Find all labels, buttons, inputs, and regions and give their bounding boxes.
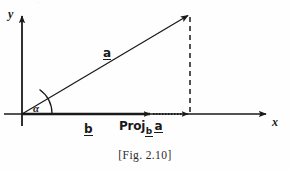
figure-canvas (0, 0, 290, 170)
projection-label-prefix: Proj (119, 119, 145, 133)
projection-label-subscript: b (145, 127, 152, 137)
y-axis-label: y (8, 8, 13, 20)
projection-label: Projba (119, 120, 163, 133)
projection-label-argument: a (154, 120, 163, 133)
vector-a-label-text: a (103, 47, 111, 60)
vector-a-label: a (103, 44, 111, 60)
vector-b-label: b (84, 120, 93, 136)
vector-a-line (22, 16, 188, 115)
angle-arc (40, 90, 53, 115)
vector-projection-figure: ·· y x α a b Projba (0, 0, 290, 170)
x-axis-label: x (272, 116, 278, 128)
figure-caption: [Fig. 2.10] (0, 149, 290, 161)
vector-b-label-text: b (84, 123, 93, 136)
angle-alpha-label: α (33, 103, 39, 114)
